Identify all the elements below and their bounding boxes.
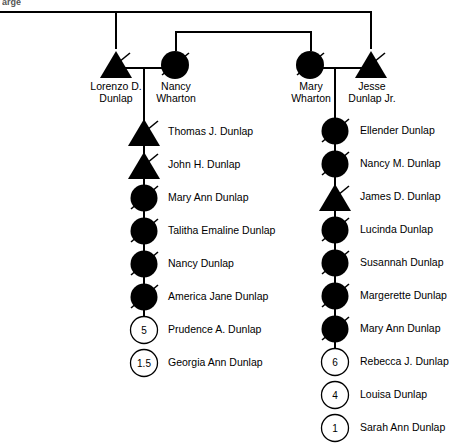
triangle-icon: [318, 182, 352, 212]
symbol-number: 5: [127, 315, 161, 345]
drop-line-jesse: [370, 11, 372, 49]
person-georgia-ann-dunlap[interactable]: 1.5: [127, 348, 161, 378]
label-lucinda-dunlap: Lucinda Dunlap: [360, 224, 433, 236]
drop-line-lorenzo: [115, 11, 117, 49]
person-margerette-dunlap[interactable]: [318, 281, 352, 311]
label-thomas-j-dunlap: Thomas J. Dunlap: [168, 126, 253, 138]
label-mary-ann-dunlap: Mary Ann Dunlap: [168, 192, 249, 204]
triangle-icon: [127, 117, 161, 147]
label-nancy-wharton: Nancy Wharton: [137, 81, 215, 104]
person-talitha-emaline-dunlap[interactable]: [127, 216, 161, 246]
circle-icon: [127, 183, 161, 213]
person-rebecca-j-dunlap[interactable]: 6: [318, 347, 352, 377]
label-talitha-emaline-dunlap: Talitha Emaline Dunlap: [168, 225, 275, 237]
symbol-number: 6: [318, 347, 352, 377]
circle-icon: [318, 248, 352, 278]
symbol-number: 1: [318, 413, 352, 443]
symbol-number: 4: [318, 380, 352, 410]
person-john-h-dunlap[interactable]: [127, 150, 161, 180]
circle-icon: [127, 216, 161, 246]
triangle-icon: [354, 49, 388, 79]
label-georgia-ann-dunlap: Georgia Ann Dunlap: [168, 357, 263, 369]
label-margerette-dunlap: Margerette Dunlap: [360, 290, 447, 302]
person-mary-ann-dunlap[interactable]: [318, 314, 352, 344]
person-james-d-dunlap[interactable]: [318, 182, 352, 212]
chart-caption-fragment: arge: [2, 0, 21, 8]
wharton-sisters-bar: [175, 31, 312, 33]
person-nancy-dunlap[interactable]: [127, 249, 161, 279]
label-rebecca-j-dunlap: Rebecca J. Dunlap: [360, 356, 449, 368]
label-sarah-ann-dunlap: Sarah Ann Dunlap: [360, 422, 445, 434]
person-louisa-dunlap[interactable]: 4: [318, 380, 352, 410]
circle-icon: [318, 116, 352, 146]
person-mary-wharton[interactable]: [293, 49, 327, 79]
person-jesse-dunlap-jr[interactable]: [354, 49, 388, 79]
label-mary-ann-dunlap: Mary Ann Dunlap: [360, 323, 441, 335]
circle-icon: [318, 281, 352, 311]
label-america-jane-dunlap: America Jane Dunlap: [168, 291, 268, 303]
person-america-jane-dunlap[interactable]: [127, 282, 161, 312]
person-nancy-wharton[interactable]: [158, 49, 192, 79]
person-thomas-j-dunlap[interactable]: [127, 117, 161, 147]
label-james-d-dunlap: James D. Dunlap: [360, 191, 441, 203]
circle-icon: [158, 49, 192, 79]
top-sibship-bar: [0, 11, 372, 13]
circle-icon: [318, 314, 352, 344]
circle-icon: [127, 249, 161, 279]
triangle-icon: [127, 150, 161, 180]
drop-line-nancy-wharton: [175, 31, 177, 51]
label-nancy-dunlap: Nancy Dunlap: [168, 258, 234, 270]
label-prudence-a-dunlap: Prudence A. Dunlap: [168, 324, 261, 336]
circle-icon: [318, 215, 352, 245]
label-jesse-dunlap-jr: Jesse Dunlap Jr.: [333, 81, 411, 104]
person-mary-ann-dunlap[interactable]: [127, 183, 161, 213]
person-sarah-ann-dunlap[interactable]: 1: [318, 413, 352, 443]
symbol-number: 1.5: [127, 348, 161, 378]
person-lorenzo-d-dunlap[interactable]: [99, 49, 133, 79]
person-ellender-dunlap[interactable]: [318, 116, 352, 146]
label-louisa-dunlap: Louisa Dunlap: [360, 389, 427, 401]
label-john-h-dunlap: John H. Dunlap: [168, 159, 240, 171]
circle-icon: [318, 149, 352, 179]
circle-icon: [127, 282, 161, 312]
person-prudence-a-dunlap[interactable]: 5: [127, 315, 161, 345]
person-nancy-m-dunlap[interactable]: [318, 149, 352, 179]
pedigree-chart: arge Lorenzo D. Dunlap Nancy Wharton: [0, 0, 456, 443]
label-ellender-dunlap: Ellender Dunlap: [360, 125, 435, 137]
label-susannah-dunlap: Susannah Dunlap: [360, 257, 443, 269]
circle-icon: [293, 49, 327, 79]
person-susannah-dunlap[interactable]: [318, 248, 352, 278]
triangle-icon: [99, 49, 133, 79]
person-lucinda-dunlap[interactable]: [318, 215, 352, 245]
drop-line-mary-wharton: [310, 31, 312, 51]
label-nancy-m-dunlap: Nancy M. Dunlap: [360, 158, 441, 170]
